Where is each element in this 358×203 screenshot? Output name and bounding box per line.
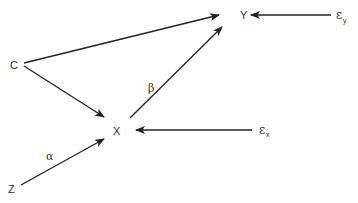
- causal-diagram: C Y X Z β α ε y ε x: [0, 0, 358, 203]
- edge-label-alpha: α: [46, 150, 54, 163]
- node-y: Y: [240, 9, 248, 21]
- edge-x-to-y: [130, 27, 222, 118]
- epsilon-x-symbol: ε: [259, 123, 265, 137]
- edge-c-to-y: [24, 15, 219, 63]
- error-term-x: ε x: [259, 123, 270, 138]
- node-c: C: [10, 59, 18, 71]
- diagram-svg: C Y X Z β α ε y ε x: [0, 0, 358, 203]
- edge-z-to-x: [21, 139, 104, 185]
- edge-label-beta: β: [148, 82, 154, 95]
- epsilon-y-symbol: ε: [336, 8, 342, 22]
- node-x: X: [113, 125, 121, 137]
- node-z: Z: [8, 183, 15, 195]
- edge-c-to-x: [24, 66, 104, 117]
- epsilon-x-subscript: x: [266, 131, 270, 138]
- epsilon-y-subscript: y: [343, 17, 347, 25]
- error-term-y: ε y: [336, 8, 347, 25]
